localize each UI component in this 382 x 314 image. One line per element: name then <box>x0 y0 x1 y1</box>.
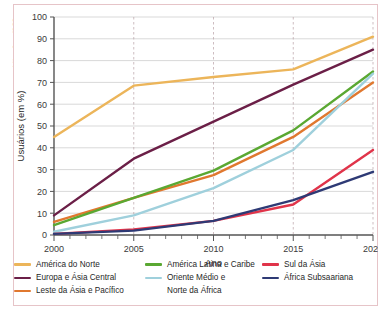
legend-item: Europa e Ásia Central <box>14 272 124 285</box>
legend-item-label: América Latina e Caribe <box>167 259 255 271</box>
y-tick-label: 90 <box>37 34 47 44</box>
legend-item: Leste da Ásia e Pacífico <box>14 285 124 298</box>
legend-column-1: América do NorteEuropa e Ásia CentralLes… <box>14 259 124 299</box>
legend-column-3: Sul da ÁsiaÁfrica Subsaariana <box>262 259 353 285</box>
y-tick-label: 30 <box>37 165 47 175</box>
legend-color-swatch <box>262 263 279 266</box>
legend-item: Oriente Médio e <box>145 272 255 285</box>
legend-color-swatch <box>145 263 162 266</box>
legend-color-swatch <box>262 277 279 280</box>
legend-color-swatch <box>145 277 162 280</box>
legend-item-label: Oriente Médio e <box>167 272 225 284</box>
legend-item-label: Europa e Ásia Central <box>36 272 116 284</box>
legend-item-label: África Subsaariana <box>284 272 353 284</box>
x-tick-label: 2005 <box>124 244 144 254</box>
y-tick-label: 0 <box>42 230 47 240</box>
y-tick-label: 80 <box>37 56 47 66</box>
y-tick-label: 10 <box>37 209 47 219</box>
y-tick-label: 50 <box>37 121 47 131</box>
legend-item-label: Sul da Ásia <box>284 259 325 271</box>
x-tick-label: 2015 <box>283 244 303 254</box>
legend-color-swatch <box>14 277 31 280</box>
legend-item: Sul da Ásia <box>262 259 353 272</box>
legend-column-2: América Latina e CaribeOriente Médio eNo… <box>145 259 255 299</box>
legend-item-label: Leste da Ásia e Pacífico <box>36 285 124 297</box>
y-tick-label: 60 <box>37 100 47 110</box>
y-tick-label: 40 <box>37 143 47 153</box>
y-axis-title: Usuários (em %) <box>15 91 26 162</box>
x-tick-label: 2010 <box>203 244 223 254</box>
legend-color-swatch <box>14 290 31 293</box>
y-tick-label: 100 <box>32 12 47 22</box>
legend-item-label-continued: Norte da África <box>145 285 255 298</box>
legend-color-swatch <box>14 263 31 266</box>
x-tick-label: 2020 <box>363 244 378 254</box>
legend-item: América do Norte <box>14 259 124 272</box>
legend-item: América Latina e Caribe <box>145 259 255 272</box>
y-tick-label: 20 <box>37 187 47 197</box>
x-tick-label: 2000 <box>44 244 64 254</box>
y-tick-label: 70 <box>37 78 47 88</box>
legend-item-label: América do Norte <box>36 259 100 271</box>
chart-screenshot: Adilson Secco/ID/BR 01020304050607080901… <box>0 0 382 314</box>
legend-item: África Subsaariana <box>262 272 353 285</box>
